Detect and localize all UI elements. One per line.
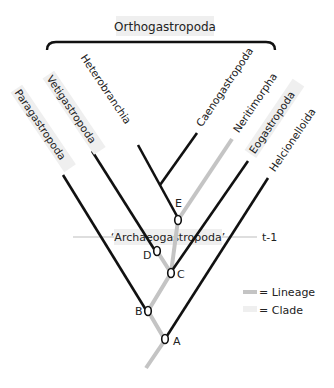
node-label-c: C bbox=[177, 268, 185, 281]
node-d bbox=[154, 247, 161, 256]
archaeogastropoda-label: ‘Archaeogastropoda’ bbox=[111, 231, 225, 244]
node-c bbox=[168, 269, 175, 278]
legend-swatch-clade bbox=[243, 306, 257, 312]
orthogastropoda-group: Orthogastropoda bbox=[47, 16, 275, 50]
node-label-b: B bbox=[135, 305, 143, 318]
legend-label-clade: = Clade bbox=[259, 304, 303, 317]
nodes: A B C D E bbox=[135, 197, 185, 348]
legend: = Lineage = Clade bbox=[243, 286, 315, 317]
node-label-e: E bbox=[175, 197, 182, 210]
node-label-d: D bbox=[143, 249, 151, 262]
taxon-labels: Paragastropoda Vetigastropoda Heterobran… bbox=[11, 45, 318, 174]
orthogastropoda-bracket bbox=[47, 42, 275, 50]
branch-caenogastropoda bbox=[160, 133, 197, 185]
branch-neritimorpha bbox=[178, 139, 232, 220]
node-label-a: A bbox=[173, 335, 181, 348]
title-label: Orthogastropoda bbox=[114, 20, 216, 34]
taxon-label-heterobranchia: Heterobranchia bbox=[79, 52, 134, 126]
node-a bbox=[162, 335, 169, 344]
node-e bbox=[175, 216, 182, 225]
legend-label-lineage: = Lineage bbox=[259, 286, 315, 299]
node-b bbox=[145, 307, 152, 316]
time-marker-label: t-1 bbox=[262, 231, 277, 244]
phylogeny-diagram: Orthogastropoda ‘Archaeogastropoda’ t-1 … bbox=[0, 0, 334, 388]
branch-heterobranchia bbox=[138, 145, 178, 218]
